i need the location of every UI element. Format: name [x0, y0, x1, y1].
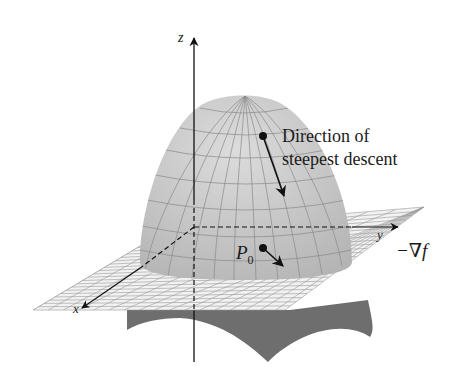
direction-label-line2: steepest descent	[282, 149, 397, 169]
y-axis-label: y	[375, 227, 383, 242]
direction-label-line1: Direction of	[282, 126, 369, 146]
neg-gradient-label: −∇f	[396, 240, 430, 261]
steepest-descent-diagram: z y x Direction of steepest descent P0 −…	[0, 0, 459, 384]
x-axis-label: x	[72, 301, 79, 316]
z-axis-label: z	[177, 30, 184, 45]
